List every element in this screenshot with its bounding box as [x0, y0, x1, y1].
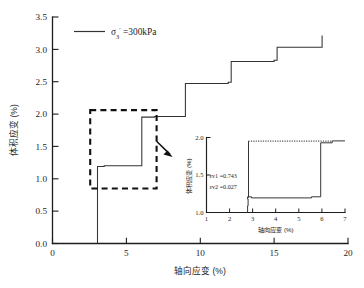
legend: σ3′ =300kPa	[74, 26, 157, 40]
chart-canvas: 0.0 0.5 1.0 1.5 2.0 2.5 3.0 3.5 0 5 10	[0, 0, 364, 288]
callout-arrow-group	[157, 141, 173, 157]
inset-x-tick-label-1: 2	[228, 215, 231, 222]
inset-y-tick-label-2: 2.0	[195, 134, 204, 141]
y-tick-labels: 0.0 0.5 1.0 1.5 2.0 2.5 3.0 3.5	[36, 12, 48, 249]
inset-plot: 1.0 1.5 2.0 1 2 3 4 5 6 7	[185, 134, 347, 234]
y-tick-label-4: 2.0	[36, 109, 48, 119]
x-tick-label-4: 20	[343, 248, 353, 258]
y-tick-marks	[53, 17, 59, 244]
inset-x-tick-label-6: 7	[343, 215, 347, 222]
inset-x-tick-label-5: 6	[320, 215, 324, 222]
inset-x-tick-labels: 1 2 3 4 5 6 7	[205, 215, 348, 222]
y-tick-label-5: 2.5	[36, 77, 48, 87]
legend-label-sigma3: σ3′ =300kPa	[111, 26, 157, 40]
y-tick-label-2: 1.0	[36, 174, 48, 184]
x-tick-label-2: 10	[196, 248, 206, 258]
y-tick-label-0: 0.0	[36, 239, 48, 249]
detail-region-box	[90, 110, 156, 188]
y-tick-label-6: 3.0	[36, 45, 48, 55]
legend-sigma-value: =300kPa	[121, 27, 158, 37]
inset-annotation-epsilon-v2: εv2 =0.027	[210, 184, 237, 190]
x-tick-labels: 0 5 10 15 20	[50, 248, 353, 258]
y-tick-label-7: 3.5	[36, 12, 48, 22]
inset-y-tick-label-0: 1.0	[195, 209, 204, 216]
inset-y-tick-labels: 1.0 1.5 2.0	[195, 134, 204, 216]
y-axis-title: 体积应变 (%)	[8, 104, 19, 156]
x-tick-label-3: 15	[270, 248, 280, 258]
legend-sigma-subscript: 3	[116, 33, 119, 40]
chart-figure: 0.0 0.5 1.0 1.5 2.0 2.5 3.0 3.5 0 5 10	[0, 0, 364, 288]
x-tick-label-0: 0	[50, 248, 55, 258]
y-tick-label-1: 0.5	[36, 206, 48, 216]
inset-x-tick-label-4: 5	[297, 215, 301, 222]
x-tick-marks	[53, 238, 349, 244]
inset-x-tick-label-0: 1	[205, 215, 208, 222]
y-tick-label-3: 1.5	[36, 142, 48, 152]
inset-y-tick-label-1: 1.5	[195, 171, 204, 178]
inset-x-tick-label-2: 3	[251, 215, 255, 222]
callout-arrow-head	[163, 150, 172, 157]
inset-x-tick-marks	[207, 209, 346, 213]
inset-y-axis-title: 体积应变 (%)	[185, 158, 193, 193]
inset-volumetric-curve	[248, 141, 345, 213]
x-tick-label-1: 5	[124, 248, 129, 258]
inset-annotation-epsilon-v1: εv1 =0.743	[210, 173, 237, 179]
inset-x-tick-label-3: 4	[274, 215, 278, 222]
x-axis-title: 轴向应变 (%)	[174, 265, 226, 276]
main-axes: 0.0 0.5 1.0 1.5 2.0 2.5 3.0 3.5 0 5 10	[8, 12, 353, 276]
inset-x-axis-title: 轴向应变 (%)	[258, 226, 293, 234]
highlight-box-group	[90, 110, 156, 188]
